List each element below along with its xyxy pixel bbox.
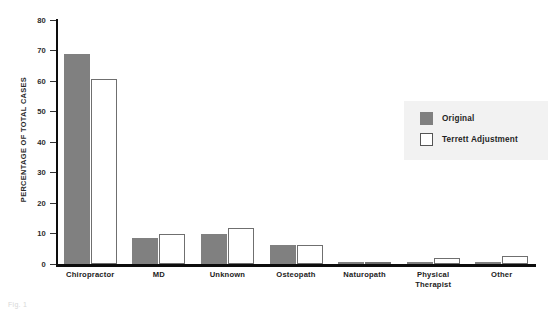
x-tick-label-physical-therapist: Physical Therapist (399, 270, 468, 289)
caption-fragment: Fig. 1 (8, 301, 27, 308)
outlined-white-swatch-icon (420, 133, 433, 146)
y-tick-label: 0 (6, 260, 46, 269)
bar-terrett-adjustment-osteopath (297, 245, 323, 264)
legend-item-terrett-adjustment: Terrett Adjustment (420, 132, 518, 147)
bar-original-physical-therapist (407, 262, 433, 264)
bar-original-other (475, 262, 501, 264)
bar-terrett-adjustment-naturopath (365, 262, 391, 264)
bar-terrett-adjustment-physical-therapist (434, 258, 460, 264)
bar-original-md (132, 238, 158, 264)
x-tick-label-chiropractor: Chiropractor (56, 270, 125, 280)
legend-label-original: Original (442, 114, 475, 123)
bar-original-osteopath (270, 245, 296, 264)
bar-original-naturopath (338, 262, 364, 264)
y-tick-label: 30 (6, 168, 46, 177)
x-tick-label-other: Other (467, 270, 536, 280)
bar-chart-figure: PERCENTAGE OF TOTAL CASES 01020304050607… (0, 0, 553, 314)
bar-terrett-adjustment-other (502, 256, 528, 264)
y-tick-label: 20 (6, 199, 46, 208)
x-tick-label-md: MD (125, 270, 194, 280)
bar-original-chiropractor (64, 54, 90, 264)
y-tick-label: 80 (6, 16, 46, 25)
x-tick-label-unknown: Unknown (193, 270, 262, 280)
y-tick-label: 70 (6, 46, 46, 55)
y-tick-label: 10 (6, 229, 46, 238)
bar-terrett-adjustment-md (159, 234, 185, 265)
bar-terrett-adjustment-chiropractor (91, 79, 117, 264)
bar-original-unknown (201, 234, 227, 265)
legend-label-terrett-adjustment: Terrett Adjustment (442, 135, 518, 144)
y-tick-label: 60 (6, 77, 46, 86)
x-axis-line (56, 264, 536, 267)
x-tick-label-osteopath: Osteopath (262, 270, 331, 280)
y-tick-label: 40 (6, 138, 46, 147)
filled-gray-swatch-icon (420, 112, 433, 125)
legend-item-original: Original (420, 111, 475, 126)
x-tick-label-naturopath: Naturopath (330, 270, 399, 280)
chart-legend: Original Terrett Adjustment (404, 101, 548, 160)
bar-terrett-adjustment-unknown (228, 228, 254, 264)
y-tick-label: 50 (6, 107, 46, 116)
